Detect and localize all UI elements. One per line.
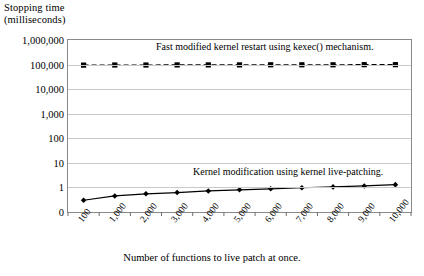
x-axis-title: Number of functions to live patch at onc… [0,252,424,263]
annotation-kexec: Fast modified kernel restart using kexec… [156,41,373,52]
annotation-live-patching: Kernel modification using kernel live-pa… [193,166,383,177]
chart-container: Stopping time (milliseconds) 1,000,00010… [0,0,424,276]
